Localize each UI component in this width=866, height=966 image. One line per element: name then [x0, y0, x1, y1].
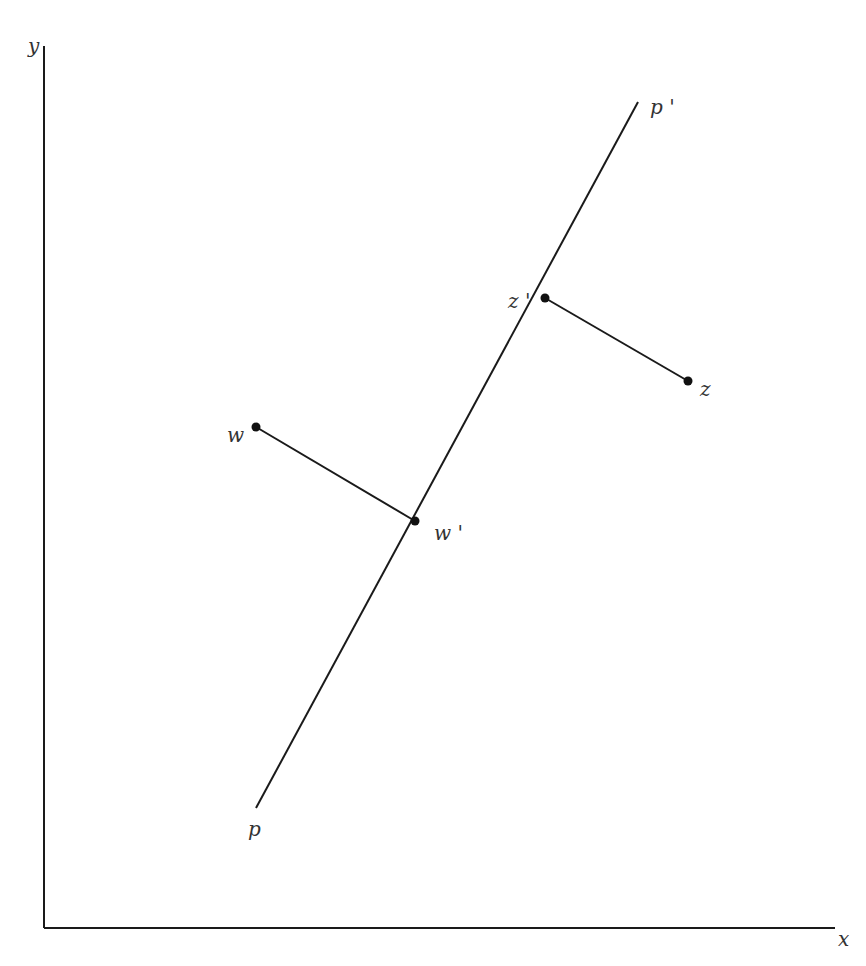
z-prime-label: z ': [507, 289, 530, 313]
projection-diagram: y x p p ' z ' z w w ': [0, 0, 866, 966]
w-projection-segment: [256, 427, 415, 521]
projection-line: [256, 102, 638, 808]
y-axis-label: y: [27, 34, 40, 58]
z-label: z: [699, 377, 711, 401]
point-w-prime: [411, 517, 420, 526]
point-z-prime: [541, 294, 550, 303]
line-end-label: p ': [650, 95, 675, 119]
point-z: [684, 377, 693, 386]
w-prime-label: w ': [434, 521, 463, 545]
z-projection-segment: [545, 298, 688, 381]
x-axis-label: x: [838, 927, 849, 951]
w-label: w: [227, 423, 244, 447]
point-w: [252, 423, 261, 432]
line-start-label: p: [248, 817, 261, 841]
